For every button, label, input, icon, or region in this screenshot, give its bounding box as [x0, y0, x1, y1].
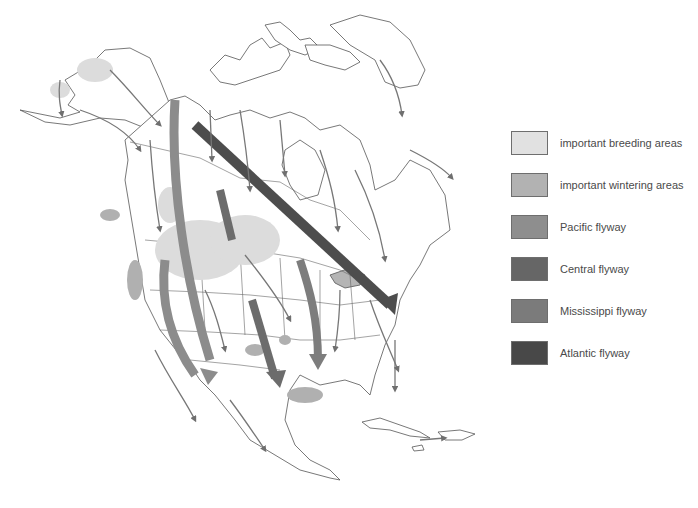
wintering-swatch [511, 173, 548, 197]
mississippi-swatch [511, 299, 548, 323]
legend-label-pacific: Pacific flyway [560, 221, 626, 233]
pacific-swatch [511, 215, 548, 239]
legend-label-atlantic: Atlantic flyway [560, 347, 630, 359]
legend-item-atlantic: Atlantic flyway [511, 340, 630, 366]
legend-item-wintering: important wintering areas [511, 172, 684, 198]
breeding-swatch [511, 131, 548, 155]
legend-item-central: Central flyway [511, 256, 629, 282]
legend-label-breeding: important breeding areas [560, 137, 682, 149]
legend-label-mississippi: Mississippi flyway [560, 305, 647, 317]
legend-item-breeding: important breeding areas [511, 130, 682, 156]
central-swatch [511, 257, 548, 281]
legend-item-pacific: Pacific flyway [511, 214, 626, 240]
flyway-map [0, 0, 698, 508]
legend-label-central: Central flyway [560, 263, 629, 275]
legend-label-wintering: important wintering areas [560, 179, 684, 191]
atlantic-swatch [511, 341, 548, 365]
legend-item-mississippi: Mississippi flyway [511, 298, 647, 324]
